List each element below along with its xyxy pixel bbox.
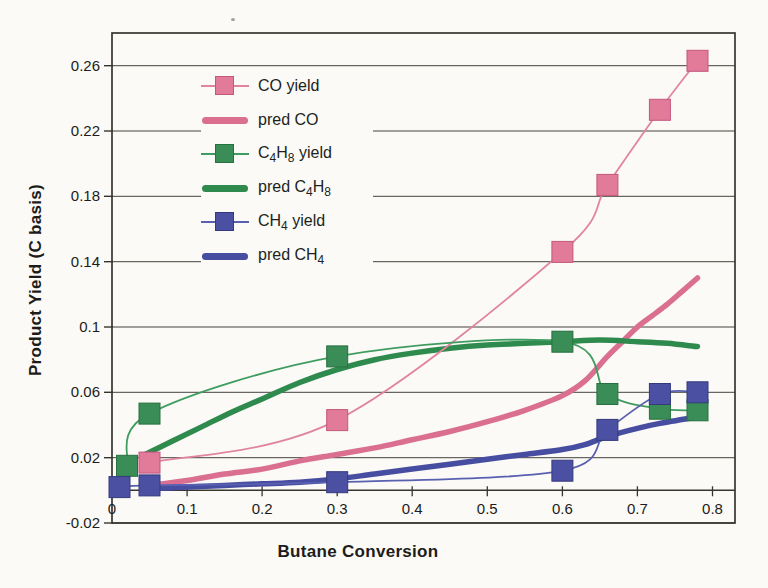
y-tick-label: 0.22 (71, 122, 100, 139)
x-axis-title: Butane Conversion (278, 542, 439, 562)
data-point-marker (687, 382, 708, 403)
x-tick-label: 0.6 (552, 500, 573, 517)
legend-label-pred-ch4: pred CH4 (258, 246, 324, 267)
legend-item-co-yield: CO yield (201, 69, 373, 103)
legend-item-pred-ch4: pred CH4 (201, 239, 373, 273)
legend-label-pred-co: pred CO (258, 111, 318, 129)
legend: CO yieldpred COC4H8 yieldpred C4H8CH4 yi… (201, 69, 373, 273)
data-point-marker (597, 174, 618, 195)
data-point-marker (649, 384, 670, 405)
data-point-marker (597, 384, 618, 405)
legend-label-co-yield: CO yield (258, 77, 319, 95)
x-tick-label: 0.5 (477, 500, 498, 517)
x-tick-label: 0.2 (252, 500, 273, 517)
legend-swatch-ch4-yield (201, 211, 249, 233)
x-tick-label: 0.7 (627, 500, 648, 517)
data-point-marker (552, 241, 573, 262)
legend-swatch-co-yield (201, 75, 249, 97)
legend-label-c4h8-yield: C4H8 yield (258, 144, 332, 165)
y-tick-label: 0.1 (79, 318, 100, 335)
legend-label-ch4-yield: CH4 yield (258, 212, 325, 233)
plot-area: 0.260.220.180.140.10.060.02-0.0200.10.20… (0, 0, 768, 588)
legend-swatch-pred-co (201, 109, 249, 131)
legend-item-ch4-yield: CH4 yield (201, 205, 373, 239)
legend-swatch-c4h8-yield (201, 143, 249, 165)
data-point-marker (687, 50, 708, 71)
x-axis: 00.10.20.30.40.50.60.70.8 (108, 486, 735, 517)
y-tick-label: -0.02 (66, 514, 100, 531)
legend-marker-square (215, 144, 234, 163)
data-point-marker (552, 331, 573, 352)
legend-marker-square (215, 212, 234, 231)
y-tick-label: 0.18 (71, 187, 100, 204)
data-point-marker (327, 346, 348, 367)
y-axis-ticks: 0.260.220.180.140.10.060.02-0.02 (66, 57, 113, 531)
data-point-marker (327, 410, 348, 431)
x-tick-label: 0 (108, 500, 116, 517)
x-tick-label: 0.3 (327, 500, 348, 517)
data-point-marker (139, 475, 160, 496)
data-point-marker (552, 460, 573, 481)
data-point-marker (139, 403, 160, 424)
y-tick-label: 0.26 (71, 57, 100, 74)
legend-swatch-pred-ch4 (201, 245, 249, 267)
data-point-marker (117, 455, 138, 476)
legend-thick-line (202, 117, 248, 124)
legend-thick-line (202, 185, 248, 192)
legend-thick-line (202, 253, 248, 260)
x-tick-label: 0.8 (702, 500, 723, 517)
x-tick-label: 0.4 (402, 500, 423, 517)
legend-item-pred-co: pred CO (201, 103, 373, 137)
y-tick-label: 0.06 (71, 383, 100, 400)
data-point-marker (139, 452, 160, 473)
legend-item-pred-c4h8: pred C4H8 (201, 171, 373, 205)
legend-label-pred-c4h8: pred C4H8 (258, 178, 331, 199)
legend-item-c4h8-yield: C4H8 yield (201, 137, 373, 171)
data-point-marker (597, 419, 618, 440)
chart-figure: 0.260.220.180.140.10.060.02-0.0200.10.20… (0, 0, 768, 588)
legend-marker-square (215, 76, 234, 95)
legend-swatch-pred-c4h8 (201, 177, 249, 199)
data-point-marker (109, 477, 130, 498)
data-point-marker (649, 99, 670, 120)
y-tick-label: 0.02 (71, 449, 100, 466)
y-tick-label: 0.14 (71, 253, 100, 270)
data-point-marker (327, 472, 348, 493)
x-tick-label: 0.1 (177, 500, 198, 517)
y-axis-title: Product Yield (C basis) (26, 184, 46, 376)
